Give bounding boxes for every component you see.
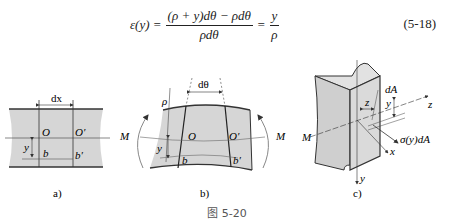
panel-c-cross-section: dA z y z M σ(y)dA x y c)	[301, 60, 433, 200]
svg-text:M: M	[301, 131, 312, 143]
svg-text:O′: O′	[229, 130, 240, 142]
svg-text:y: y	[385, 97, 391, 109]
svg-text:c): c)	[353, 187, 362, 200]
svg-text:b): b)	[200, 187, 210, 200]
svg-text:x: x	[389, 145, 395, 157]
panel-b-bent-beam: dθ ρ M O O′ y b b′ M b)	[119, 78, 286, 200]
svg-text:O′: O′	[75, 126, 86, 138]
svg-text:a): a)	[53, 187, 62, 200]
svg-text:b′: b′	[75, 149, 84, 161]
svg-text:O: O	[188, 130, 196, 142]
svg-text:ρ: ρ	[161, 95, 167, 107]
svg-text:b: b	[182, 154, 188, 166]
svg-text:b: b	[43, 147, 49, 159]
svg-text:dx: dx	[51, 92, 63, 104]
panel-a-straight-beam: dx O O′ y b b′ a)	[5, 92, 110, 200]
svg-text:σ(y)dA: σ(y)dA	[400, 133, 430, 146]
svg-text:y: y	[23, 141, 29, 153]
figure-caption: 图 5-20	[0, 204, 454, 220]
svg-text:dθ: dθ	[198, 78, 209, 90]
svg-text:M: M	[119, 130, 130, 142]
svg-text:b′: b′	[233, 154, 242, 166]
svg-text:O: O	[42, 126, 50, 138]
svg-text:z: z	[427, 98, 433, 110]
svg-text:dA: dA	[385, 83, 398, 95]
svg-text:y: y	[359, 172, 365, 184]
beam-bending-figure: dx O O′ y b b′ a) dθ ρ M O O′ y b b′ M b…	[0, 0, 454, 224]
svg-text:y: y	[156, 142, 162, 154]
svg-text:M: M	[275, 130, 286, 142]
svg-text:z: z	[364, 96, 370, 108]
